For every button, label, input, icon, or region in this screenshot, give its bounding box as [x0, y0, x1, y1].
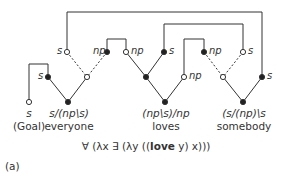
node-label: np — [209, 45, 222, 56]
proof-net-diagram — [0, 0, 292, 182]
node-filled — [161, 49, 166, 54]
node-root-somebody — [240, 99, 245, 104]
node-label: np — [189, 70, 202, 81]
category-everyone: s/(np\s) — [49, 107, 89, 119]
formula-prefix: ∀ (λx ∃ (λy (( — [82, 140, 150, 152]
panel-label: (a) — [5, 160, 20, 172]
node-empty — [220, 74, 225, 79]
word-somebody: somebody — [217, 120, 272, 132]
node-filled — [143, 74, 148, 79]
node-empty — [181, 74, 186, 79]
node-label: s — [248, 45, 253, 56]
word-goal: (Goal) — [13, 120, 45, 132]
node-label: np — [131, 45, 144, 56]
node-root-loves — [162, 99, 167, 104]
word-loves: loves — [152, 120, 180, 132]
node-label: np — [93, 45, 106, 56]
node-goal — [26, 99, 31, 104]
node-label: s — [267, 70, 272, 81]
category-goal: s — [26, 107, 31, 119]
category-loves: (np\s)/np — [142, 107, 189, 119]
word-everyone: everyone — [44, 120, 93, 132]
node-empty — [84, 74, 89, 79]
node-empty — [64, 49, 69, 54]
formula-suffix: y) x))) — [175, 140, 211, 152]
category-somebody: (s/(np)\s — [222, 107, 266, 119]
axis-link-np-inner — [107, 39, 126, 52]
node-filled — [259, 74, 264, 79]
node-filled — [201, 49, 206, 54]
node-filled — [45, 74, 50, 79]
node-label: s — [169, 45, 174, 56]
node-empty — [123, 49, 128, 54]
node-empty — [240, 49, 245, 54]
node-label: s — [57, 45, 62, 56]
semantic-formula: ∀ (λx ∃ (λy ((love y) x))) — [0, 140, 292, 152]
node-label: s — [38, 70, 43, 81]
node-root-everyone — [65, 99, 70, 104]
formula-bold-term: love — [150, 140, 175, 152]
